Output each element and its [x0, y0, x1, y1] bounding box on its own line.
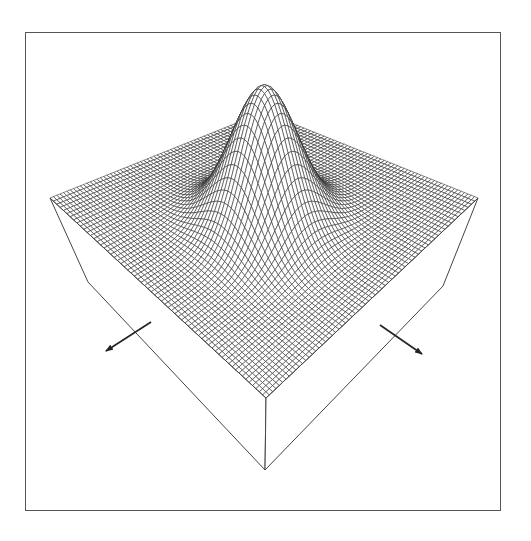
surface-plot	[0, 0, 531, 541]
wireframe-mesh	[50, 85, 478, 398]
